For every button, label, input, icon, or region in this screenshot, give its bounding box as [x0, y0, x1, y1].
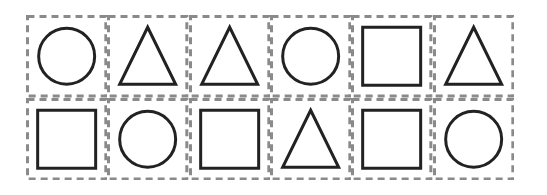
grid-cell-square: [351, 98, 432, 181]
grid-cell-triangle: [107, 15, 188, 98]
square-icon: [351, 15, 432, 98]
square-icon: [351, 98, 432, 181]
circle-icon: [26, 15, 107, 98]
grid-cell-square: [351, 15, 432, 98]
circle-icon: [270, 15, 351, 98]
triangle-icon: [433, 15, 514, 98]
circle-icon: [433, 98, 514, 181]
grid-cell-square: [189, 98, 270, 181]
grid-cell-circle: [270, 15, 351, 98]
square-icon: [189, 98, 270, 181]
grid-cell-triangle: [189, 15, 270, 98]
triangle-icon: [270, 98, 351, 181]
grid-cell-square: [26, 98, 107, 181]
grid-cell-triangle: [433, 15, 514, 98]
triangle-icon: [189, 15, 270, 98]
square-icon: [26, 98, 107, 181]
triangle-icon: [107, 15, 188, 98]
grid-cell-circle: [26, 15, 107, 98]
grid-cell-triangle: [270, 98, 351, 181]
grid-cell-circle: [107, 98, 188, 181]
grid-cell-circle: [433, 98, 514, 181]
shape-grid: [26, 15, 514, 180]
circle-icon: [107, 98, 188, 181]
